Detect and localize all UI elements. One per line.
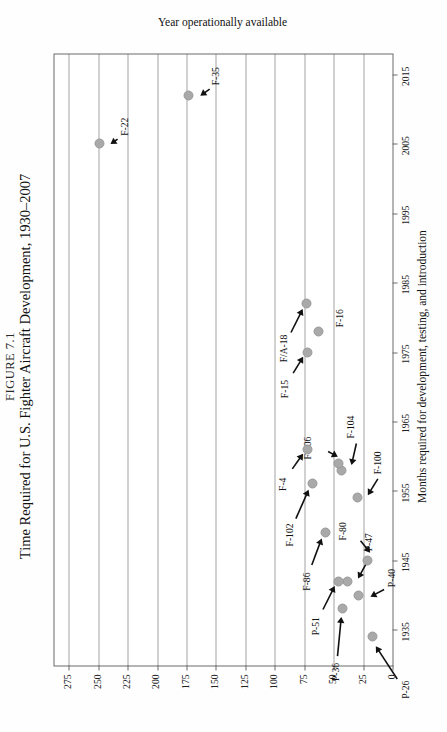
data-point-F-35 xyxy=(183,90,193,100)
point-label-F-86: F-86 xyxy=(300,572,311,590)
figure-number: FIGURE 7.1 xyxy=(2,0,17,732)
leader-arrow-F-86 xyxy=(307,535,326,566)
data-point-P-36 xyxy=(337,604,347,614)
y-axis-title: Months required for development, testing… xyxy=(415,0,427,732)
y-tick-225 xyxy=(127,665,128,670)
point-label-F-22: F-22 xyxy=(118,117,129,135)
figure-page: FIGURE 7.1 Time Required for U.S. Fighte… xyxy=(0,0,447,732)
y-tick-label-250: 250 xyxy=(91,674,102,708)
gridline-months-100 xyxy=(274,54,275,665)
y-tick-75 xyxy=(304,665,305,670)
x-tick-label-1955: 1955 xyxy=(399,472,410,512)
x-tick-2005 xyxy=(392,143,397,144)
gridline-months-150 xyxy=(215,54,216,665)
figure-title: Time Required for U.S. Fighter Aircraft … xyxy=(16,0,33,732)
point-label-P-26: P-26 xyxy=(399,680,410,698)
point-label-P-51: P-51 xyxy=(309,617,320,635)
data-point-P-47 xyxy=(342,576,352,586)
y-tick-label-175: 175 xyxy=(179,674,190,708)
y-tick-25 xyxy=(363,665,364,670)
x-tick-1945 xyxy=(392,560,397,561)
y-tick-label-25: 25 xyxy=(356,674,367,708)
data-point-P-26 xyxy=(367,631,377,641)
leader-arrow-F-104 xyxy=(346,442,360,468)
point-label-F-15: F-15 xyxy=(279,380,290,398)
point-label-F-104: F-104 xyxy=(345,415,356,438)
y-tick-label-225: 225 xyxy=(120,674,131,708)
y-tick-label-125: 125 xyxy=(238,674,249,708)
x-tick-1975 xyxy=(392,352,397,353)
y-tick-label-100: 100 xyxy=(267,674,278,708)
x-tick-label-1985: 1985 xyxy=(399,264,410,304)
data-point-F-100 xyxy=(352,492,362,502)
x-tick-1985 xyxy=(392,282,397,283)
y-tick-label-50: 50 xyxy=(326,674,337,708)
point-label-F-100: F-100 xyxy=(372,451,383,474)
x-tick-label-2015: 2015 xyxy=(399,56,410,96)
point-label-P-40: P-40 xyxy=(385,569,396,587)
gridline-months-200 xyxy=(157,54,158,665)
leader-arrow-F-102 xyxy=(291,485,313,519)
gridline-months-275 xyxy=(68,54,69,665)
y-tick-275 xyxy=(68,665,69,670)
x-tick-label-1975: 1975 xyxy=(399,334,410,374)
leader-arrow-F-22 xyxy=(106,135,120,148)
point-label-F-4: F-4 xyxy=(277,477,288,490)
x-tick-1995 xyxy=(392,213,397,214)
x-tick-label-1965: 1965 xyxy=(399,403,410,443)
leader-arrow-F-106 xyxy=(325,447,341,461)
y-tick-label-0: 0 xyxy=(385,674,396,708)
leader-arrow-F-35 xyxy=(196,85,212,100)
x-tick-2015 xyxy=(392,74,397,75)
x-tick-label-1995: 1995 xyxy=(399,195,410,235)
y-tick-label-275: 275 xyxy=(61,674,72,708)
point-label-F-35: F-35 xyxy=(210,67,221,85)
data-point-F-16 xyxy=(313,326,323,336)
y-tick-200 xyxy=(157,665,158,670)
data-point-P-40 xyxy=(353,590,363,600)
point-label-F-16: F-16 xyxy=(333,309,344,327)
leader-arrow-F-100 xyxy=(363,476,382,499)
x-axis-title: Year operationally available xyxy=(157,15,286,27)
data-point-F-22 xyxy=(94,138,104,148)
leader-arrow-P-51 xyxy=(318,582,339,611)
y-tick-250 xyxy=(98,665,99,670)
x-tick-1965 xyxy=(392,421,397,422)
y-tick-150 xyxy=(215,665,216,670)
scatter-plot-area: P-26P-36P-40P-47P-51F-80F-86F-100F-102F-… xyxy=(53,53,393,666)
gridline-months-225 xyxy=(127,54,128,665)
gridline-months-175 xyxy=(186,54,187,665)
x-tick-1935 xyxy=(392,629,397,630)
y-tick-125 xyxy=(245,665,246,670)
gridline-months-50 xyxy=(333,54,334,665)
point-label-F-A-18: F/A-18 xyxy=(277,334,288,362)
point-label-F-80: F-80 xyxy=(337,522,348,540)
gridline-months-125 xyxy=(245,54,246,665)
point-label-F-102: F-102 xyxy=(283,523,294,546)
leader-arrow-P-40 xyxy=(366,585,386,601)
x-tick-label-1935: 1935 xyxy=(399,611,410,651)
x-tick-label-2005: 2005 xyxy=(399,125,410,165)
y-tick-100 xyxy=(274,665,275,670)
y-tick-label-75: 75 xyxy=(297,674,308,708)
y-tick-175 xyxy=(186,665,187,670)
x-tick-1955 xyxy=(392,490,397,491)
x-tick-label-1945: 1945 xyxy=(399,542,410,582)
y-tick-label-200: 200 xyxy=(149,674,160,708)
y-tick-label-150: 150 xyxy=(208,674,219,708)
